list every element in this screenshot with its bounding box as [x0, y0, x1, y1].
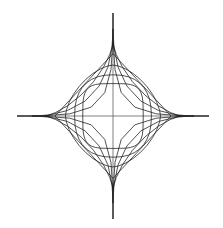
figure-background: [0, 0, 223, 228]
figure-canvas: [0, 0, 223, 228]
superellipse-figure: [0, 0, 223, 228]
